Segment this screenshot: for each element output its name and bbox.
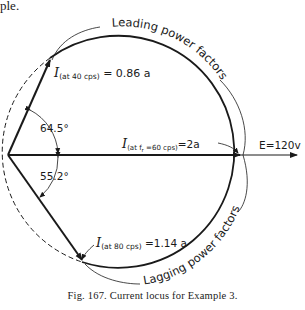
i80-label: I(at 80 cps) =1.14 a [95,235,187,251]
current-phasor-40cps [8,60,50,155]
angle-upper-label: 64.5° [40,122,69,134]
current-locus-diagram: Leading power factors Lagging power fact… [0,0,305,310]
angle-lower-label: 55.2° [40,170,69,182]
i80-pointer [82,245,94,259]
locus-dashed-arc [2,58,82,262]
voltage-label: E=120v [259,139,301,151]
i60-label: I(at fr =60 cps)=2a [121,136,200,153]
figure-caption: Fig. 167. Current locus for Example 3. [0,290,305,301]
i40-label: I(at 40 cps) = 0.86 a [53,65,151,81]
